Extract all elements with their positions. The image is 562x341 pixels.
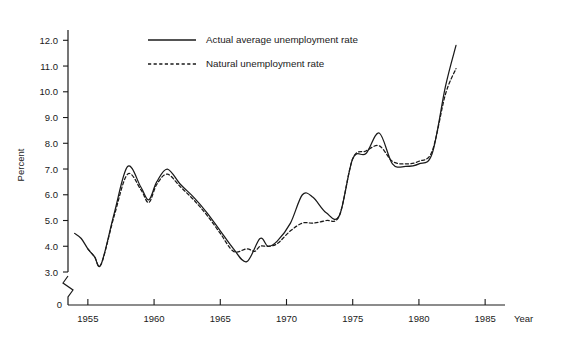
x-tick-label: 1960	[144, 313, 165, 324]
x-tick-label: 1970	[276, 313, 297, 324]
x-tick-label: 1985	[475, 313, 496, 324]
legend-label-actual: Actual average unemployment rate	[206, 34, 358, 45]
x-tick-label: 1955	[77, 313, 98, 324]
chart-canvas: 3.04.05.06.07.08.09.010.011.012.0 0 Perc…	[0, 0, 562, 341]
chart-legend: Actual average unemployment rate Natural…	[148, 34, 358, 69]
x-axis-title: Year	[514, 313, 533, 324]
y-axis: 3.04.05.06.07.08.09.010.011.012.0 0 Perc…	[15, 30, 73, 310]
y-tick-label: 10.0	[40, 86, 59, 97]
y-axis-break-symbol	[63, 276, 73, 305]
x-axis: 1955196019651970197519801985 Year	[68, 299, 533, 324]
data-series-group	[75, 45, 456, 266]
y-tick-labels: 3.04.05.06.07.08.09.010.011.012.0	[40, 35, 59, 278]
y-tick-label: 3.0	[45, 267, 58, 278]
y-axis-zero-label: 0	[57, 299, 62, 310]
unemployment-rate-chart: 3.04.05.06.07.08.09.010.011.012.0 0 Perc…	[0, 0, 562, 341]
x-tick-labels: 1955196019651970197519801985	[77, 313, 495, 324]
legend-label-natural: Natural unemployment rate	[206, 58, 325, 69]
x-tick-label: 1965	[210, 313, 231, 324]
x-tick-marks	[88, 299, 485, 305]
y-tick-label: 9.0	[45, 112, 58, 123]
x-tick-label: 1975	[342, 313, 363, 324]
y-tick-label: 8.0	[45, 138, 58, 149]
y-tick-label: 6.0	[45, 189, 58, 200]
y-tick-label: 12.0	[40, 35, 59, 46]
y-tick-label: 7.0	[45, 164, 58, 175]
series-line-actual	[75, 45, 456, 266]
y-tick-marks	[63, 40, 68, 272]
y-tick-label: 5.0	[45, 215, 58, 226]
y-tick-label: 4.0	[45, 241, 58, 252]
y-tick-label: 11.0	[40, 61, 58, 72]
x-tick-label: 1980	[408, 313, 429, 324]
y-axis-title: Percent	[15, 148, 26, 181]
